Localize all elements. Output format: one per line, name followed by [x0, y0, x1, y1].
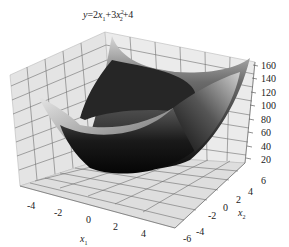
z-tick-label: 140	[261, 74, 276, 84]
z-tick-label: 20	[261, 155, 271, 165]
x2-tick-label: -6	[183, 234, 191, 244]
x2-tick-label: -2	[208, 211, 216, 221]
x1-tick-label: 4	[141, 229, 146, 239]
x1-tick-label: -4	[27, 201, 35, 211]
z-tick-label: 100	[261, 101, 276, 111]
x2-tick-label: 0	[223, 203, 228, 213]
x2-axis-label: x2	[238, 207, 245, 220]
surface-plot	[0, 0, 289, 247]
z-tick-label: 40	[261, 142, 271, 152]
x1-tick-label: 2	[113, 222, 118, 232]
z-tick-label: 120	[261, 88, 276, 98]
chart-title: y=2x1+3x22+4	[83, 9, 133, 22]
x2-tick-label: 6	[261, 176, 266, 186]
z-tick-label: 160	[261, 61, 276, 71]
x2-tick-label: 4	[248, 187, 253, 197]
z-tick-label: 60	[261, 128, 271, 138]
z-tick-label: 80	[261, 115, 271, 125]
x1-tick-label: -2	[54, 208, 62, 218]
x2-tick-label: -4	[196, 227, 204, 237]
x1-tick-label: 0	[86, 215, 91, 225]
x1-axis-label: x1	[80, 233, 87, 246]
x2-tick-label: 2	[236, 195, 241, 205]
